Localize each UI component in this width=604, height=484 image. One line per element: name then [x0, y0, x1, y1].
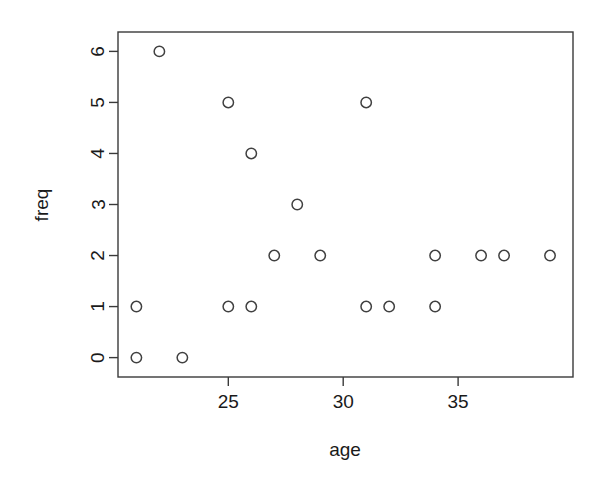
plot-frame-box: [118, 32, 573, 377]
y-tick-label: 3: [88, 199, 109, 210]
data-point: [131, 352, 141, 362]
data-point: [430, 250, 440, 260]
data-point: [361, 301, 371, 311]
y-tick-label: 1: [88, 301, 109, 312]
y-tick-label: 6: [88, 46, 109, 57]
y-tick-label: 4: [88, 148, 109, 159]
data-point: [499, 250, 509, 260]
y-tick-label: 2: [88, 250, 109, 261]
data-point: [246, 301, 256, 311]
data-point: [361, 97, 371, 107]
y-tick-label: 5: [88, 97, 109, 108]
x-tick-label: 30: [333, 391, 354, 412]
scatter-plot-figure: 0123456 253035 age freq: [0, 0, 604, 484]
data-point: [154, 46, 164, 56]
plot-canvas: 0123456 253035 age freq: [0, 0, 604, 484]
data-point: [315, 250, 325, 260]
data-point: [223, 301, 233, 311]
x-tick-label: 25: [218, 391, 239, 412]
x-axis-title: age: [329, 439, 361, 460]
x-tick-label: 35: [448, 391, 469, 412]
data-point: [177, 352, 187, 362]
data-point: [545, 250, 555, 260]
x-axis: 253035: [218, 377, 469, 412]
data-point: [384, 301, 394, 311]
data-point: [246, 148, 256, 158]
data-point: [292, 199, 302, 209]
data-point: [476, 250, 486, 260]
y-axis-title: freq: [31, 189, 52, 222]
data-point: [269, 250, 279, 260]
y-tick-label: 0: [88, 352, 109, 363]
data-point: [223, 97, 233, 107]
data-point: [430, 301, 440, 311]
y-axis: 0123456: [88, 46, 119, 363]
data-point: [131, 301, 141, 311]
data-points-layer: [131, 46, 555, 363]
